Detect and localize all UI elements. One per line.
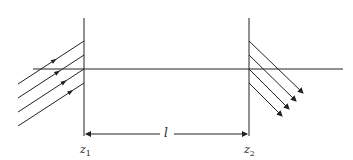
optics-diagram <box>0 0 353 160</box>
ray-direction-arrow-icon <box>54 69 61 76</box>
separation-label: l <box>164 127 168 139</box>
ray-direction-arrow-icon <box>67 88 74 95</box>
incident-rays <box>18 41 84 126</box>
incident-ray <box>18 69 84 112</box>
ray-direction-arrow-icon <box>51 57 58 64</box>
ray-direction-arrow-icon <box>60 78 67 85</box>
plane-z1-label: z1 <box>80 144 91 158</box>
transmitted-ray <box>249 55 296 101</box>
incident-ray <box>18 55 84 98</box>
plane-z2-label: z2 <box>244 144 255 158</box>
incident-ray <box>18 83 84 126</box>
transmitted-ray <box>249 41 303 93</box>
transmitted-ray <box>249 83 282 116</box>
transmitted-rays <box>249 41 303 116</box>
incident-ray <box>18 41 84 84</box>
